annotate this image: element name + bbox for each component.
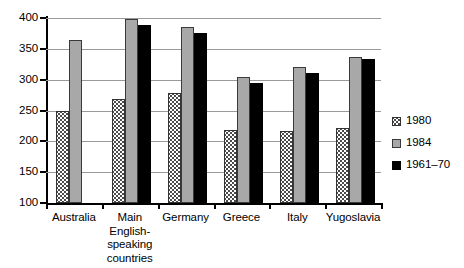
bar-1980-main [112, 99, 125, 203]
x-tick-mark [269, 203, 271, 209]
y-tick-label: 150 [2, 166, 38, 178]
bar-1984-italy [293, 67, 306, 203]
chart-legend: 198019841961–70 [392, 110, 464, 176]
bar-1980-italy [280, 131, 293, 203]
bar-group [112, 18, 151, 203]
x-tick-mark [325, 203, 327, 209]
legend-label: 1980 [406, 115, 431, 127]
gridline [46, 49, 381, 50]
legend-item[interactable]: 1984 [392, 132, 464, 154]
bar-group [280, 18, 319, 203]
bar-group [224, 18, 263, 203]
x-tick-mark [46, 203, 48, 209]
bar-1980-yugoslavia [336, 128, 349, 203]
legend-label: 1961–70 [406, 159, 450, 171]
y-tick-label: 200 [2, 135, 38, 147]
legend-item[interactable]: 1980 [392, 110, 464, 132]
bar-1984-yugoslavia [349, 57, 362, 203]
legend-label: 1984 [406, 137, 431, 149]
bar-1984-greece [237, 77, 250, 203]
bar-1984-australia [69, 40, 82, 203]
bar-1984-germany [181, 27, 194, 203]
bar-1980-greece [224, 130, 237, 203]
y-tick-label: 400 [2, 12, 38, 24]
legend-swatch-icon [392, 139, 401, 148]
x-tick-mark [158, 203, 160, 209]
bar-196170-greece [250, 83, 263, 203]
gridline [46, 172, 381, 173]
gridline [46, 80, 381, 81]
gridline [46, 18, 381, 19]
y-tick-label: 300 [2, 74, 38, 86]
plot-area [46, 18, 381, 203]
gridline [46, 111, 381, 112]
bar-group [56, 18, 95, 203]
bar-group [168, 18, 207, 203]
bar-chart: 400350300250200150100 AustraliaMain Engl… [0, 0, 464, 268]
legend-swatch-icon [392, 117, 401, 126]
y-tick-label: 100 [2, 197, 38, 209]
y-tick-label: 250 [2, 105, 38, 117]
bar-group [336, 18, 375, 203]
legend-item[interactable]: 1961–70 [392, 154, 464, 176]
bar-196170-main [138, 25, 151, 203]
bar-196170-italy [306, 73, 319, 203]
gridline [46, 141, 381, 142]
bar-196170-yugoslavia [362, 59, 375, 203]
y-tick-label: 350 [2, 43, 38, 55]
x-tick-mark [102, 203, 104, 209]
x-tick-mark [214, 203, 216, 209]
bar-1980-germany [168, 93, 181, 203]
x-axis-label: Yugoslavia [317, 211, 389, 225]
bar-1984-main [125, 19, 138, 203]
bar-196170-germany [194, 33, 207, 203]
x-tick-mark [381, 203, 383, 209]
legend-swatch-icon [392, 161, 401, 170]
bar-1980-australia [56, 111, 69, 204]
